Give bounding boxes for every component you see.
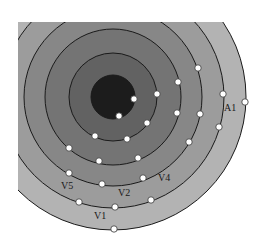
label-v5: V5 — [61, 180, 73, 191]
node-dot — [131, 96, 137, 102]
node-dot — [112, 204, 118, 210]
node-dot — [66, 145, 72, 151]
node-dot — [96, 158, 102, 164]
node-dot — [195, 65, 201, 71]
node-dot — [66, 170, 72, 176]
node-dot — [186, 139, 192, 145]
node-dot — [174, 110, 180, 116]
label-a1: A1 — [224, 102, 236, 113]
node-dot — [148, 197, 154, 203]
node-dot — [135, 155, 141, 161]
node-dot — [76, 199, 82, 205]
node-dot — [92, 133, 98, 139]
node-dot — [140, 175, 146, 181]
node-dot — [242, 99, 248, 105]
core-circle — [91, 75, 135, 119]
node-dot — [124, 136, 130, 142]
label-v1: V1 — [94, 210, 106, 221]
concentric-ring-diagram: A1V5V2V4V1 — [0, 0, 266, 246]
node-dot — [175, 79, 181, 85]
label-v4: V4 — [158, 172, 170, 183]
node-dot — [197, 111, 203, 117]
node-dot — [116, 113, 122, 119]
node-dot — [154, 91, 160, 97]
node-dot — [111, 226, 117, 232]
node-dot — [144, 120, 150, 126]
node-dot — [99, 181, 105, 187]
node-dot — [220, 91, 226, 97]
label-v2: V2 — [118, 187, 130, 198]
node-dot — [216, 124, 222, 130]
